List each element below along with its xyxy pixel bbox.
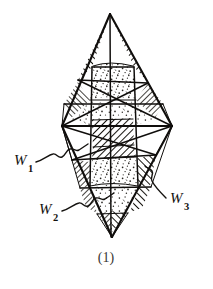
facet-lower-center-stipple — [90, 157, 138, 186]
girdle-band-facets — [92, 118, 136, 160]
figure-container: W 1 W 2 W 3 (1) — [0, 0, 213, 289]
figure-caption: (1) — [98, 250, 115, 266]
edge-lower-girdle-cross — [80, 187, 151, 188]
edge-vertical-axis — [110, 14, 111, 237]
facet-girdle-center-hatch — [92, 118, 134, 148]
label-w3-subscript: 3 — [184, 201, 189, 212]
label-w1-subscript: 1 — [28, 163, 33, 174]
crystal-bipyramid-figure: W 1 W 2 W 3 (1) — [0, 0, 213, 289]
label-w2-base: W — [39, 201, 53, 217]
label-w3-base: W — [170, 190, 184, 206]
label-w1-base: W — [14, 152, 28, 168]
label-w2-subscript: 2 — [53, 212, 58, 223]
